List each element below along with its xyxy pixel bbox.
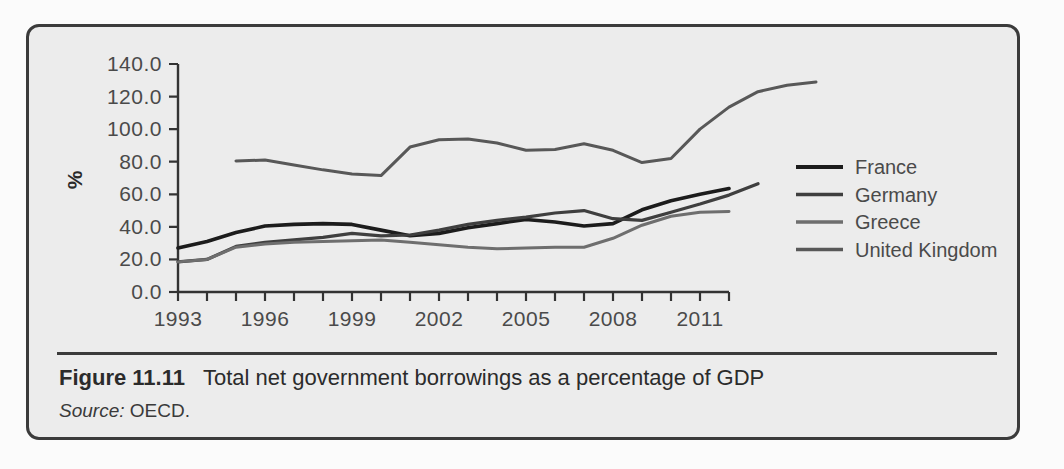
line-chart-svg: 0.020.040.060.080.0100.0120.0140.0 19931… xyxy=(29,27,1020,347)
legend-label-united-kingdom: United Kingdom xyxy=(855,239,997,261)
legend-label-germany: Germany xyxy=(855,184,937,206)
chart-plot-area: 0.020.040.060.080.0100.0120.0140.0 19931… xyxy=(29,27,1020,347)
y-axis-tick-label: 120.0 xyxy=(107,85,162,108)
x-axis-tick-label: 2005 xyxy=(502,307,551,330)
figure-source-line: Source: OECD. xyxy=(59,400,989,422)
x-axis-tick-labels: 1993199619992002200520082011 xyxy=(154,307,724,330)
chart-series-group xyxy=(178,82,816,262)
x-axis-ticks xyxy=(178,292,729,301)
figure-caption-block: Figure 11.11Total net government borrowi… xyxy=(59,363,989,422)
x-axis-tick-label: 2002 xyxy=(415,307,464,330)
y-axis-tick-label: 0.0 xyxy=(131,280,162,303)
y-axis-tick-label: 140.0 xyxy=(107,52,162,75)
x-axis-tick-label: 1993 xyxy=(154,307,203,330)
y-axis-tick-label: 100.0 xyxy=(107,117,162,140)
figure-caption-line: Figure 11.11Total net government borrowi… xyxy=(59,363,989,393)
y-axis-ticks: 0.020.040.060.080.0100.0120.0140.0 xyxy=(107,52,178,303)
source-label: Source: xyxy=(59,400,124,421)
x-axis-tick-label: 1996 xyxy=(241,307,290,330)
caption-divider-rule xyxy=(57,352,997,355)
chart-legend: FranceGermanyGreeceUnited Kingdom xyxy=(796,156,997,261)
figure-caption-text: Total net government borrowings as a per… xyxy=(203,365,764,390)
legend-label-france: France xyxy=(855,156,917,178)
x-axis-tick-label: 2008 xyxy=(589,307,638,330)
figure-panel: 0.020.040.060.080.0100.0120.0140.0 19931… xyxy=(26,24,1020,440)
y-axis-tick-label: 60.0 xyxy=(119,182,162,205)
y-axis-tick-label: 20.0 xyxy=(119,247,162,270)
source-value: OECD. xyxy=(130,400,190,421)
page-root: 0.020.040.060.080.0100.0120.0140.0 19931… xyxy=(0,0,1064,469)
y-axis-tick-label: 40.0 xyxy=(119,215,162,238)
x-axis-tick-label: 2011 xyxy=(676,307,723,330)
figure-number-label: Figure 11.11 xyxy=(59,365,185,390)
chart-axes xyxy=(178,64,729,292)
series-line-germany xyxy=(178,184,758,262)
y-axis-title: % xyxy=(63,170,86,189)
legend-label-greece: Greece xyxy=(855,211,921,233)
series-line-united-kingdom xyxy=(236,82,816,176)
x-axis-tick-label: 1999 xyxy=(328,307,377,330)
y-axis-tick-label: 80.0 xyxy=(119,150,162,173)
